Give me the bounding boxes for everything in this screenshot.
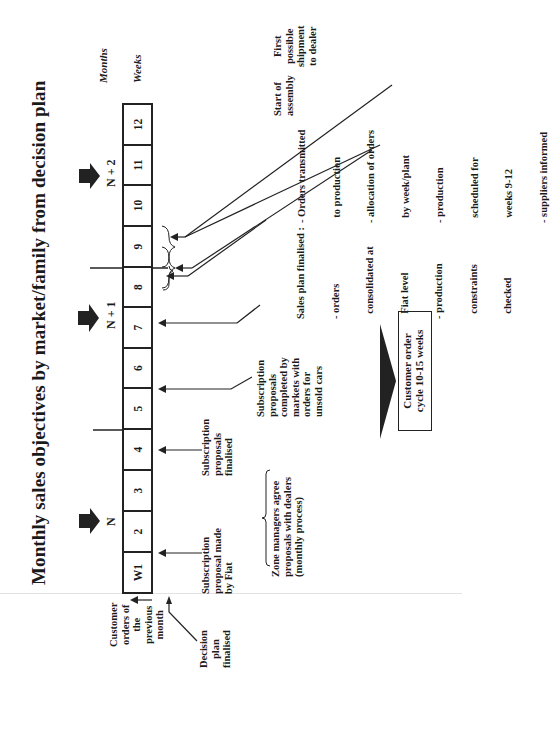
annotation-first-shipment: First possible shipment to dealer xyxy=(272,26,318,67)
week-cell: W1 xyxy=(122,551,153,594)
month-label-n1: N + 1 xyxy=(104,301,119,329)
week-cell: 11 xyxy=(122,144,153,186)
annotation-start-assembly: Start of assembly xyxy=(272,75,295,116)
annotation-subscription-finalised: Subscription proposals finalised xyxy=(200,419,235,476)
month-label-n: N xyxy=(104,517,119,526)
week-cell: 5 xyxy=(122,387,153,430)
week-cell: 3 xyxy=(122,469,153,512)
decision-plan-label: Decision plan finalised xyxy=(198,630,233,668)
annotation-subscription-made: Subscription proposal made by Fiat xyxy=(200,528,235,594)
week-cell: 7 xyxy=(122,306,153,349)
week-cell: 6 xyxy=(122,347,153,389)
annotation-subscription-completed: Subscription proposals completed by mark… xyxy=(255,357,324,417)
week-cell: 12 xyxy=(122,103,153,146)
annotation-zone-managers: Zone managers agree proposals with deale… xyxy=(270,477,305,577)
annotation-orders-transmitted: - Orders transmitted to production - all… xyxy=(273,130,554,223)
month-arrow-icons xyxy=(78,163,100,534)
annotation-sales-plan: Sales plan finalised : - orders consolid… xyxy=(272,227,537,319)
week-cell: 10 xyxy=(122,184,153,227)
cycle-wedge-icon xyxy=(380,324,396,439)
week-cell: 4 xyxy=(122,428,153,471)
month-label-n2: N + 2 xyxy=(104,159,119,187)
week-cell: 2 xyxy=(122,510,153,553)
customer-orders-label: Customer orders of the previous month xyxy=(108,603,166,647)
week-cell: 8 xyxy=(122,266,153,308)
customer-order-cycle-box: Customer order cycle 10-15 weeks xyxy=(398,311,432,431)
week-cell: 9 xyxy=(122,225,153,268)
